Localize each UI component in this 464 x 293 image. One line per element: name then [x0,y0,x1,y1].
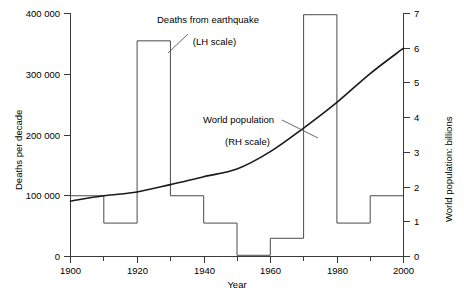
x-axis-title: Year [207,279,267,290]
deaths-annotation-line2: (LH scale) [157,36,272,47]
y-axis-right-tick-label-5: 5 [414,77,419,88]
x-axis-tick-label-2000: 2000 [378,265,429,276]
population-annotation-line1: World population [203,114,292,125]
y-axis-left-tick-label-0: 0 [0,251,60,262]
y-axis-right-ticks [404,14,410,257]
y-axis-left-tick-label-400000: 400 000 [0,8,60,19]
x-axis-tick-label-1920: 1920 [112,265,163,276]
x-axis-tick-label-1940: 1940 [179,265,230,276]
y-axis-right-tick-label-6: 6 [414,43,419,54]
x-axis-tick-label-1900: 1900 [45,265,96,276]
y-axis-right-tick-label-0: 0 [414,251,419,262]
x-axis-tick-label-1960: 1960 [245,265,296,276]
population-annotation-line2: (RH scale) [203,136,292,147]
y-axis-left-title: Deaths per decade [13,70,24,190]
deaths-annotation-line1: Deaths from earthquake [157,14,272,25]
earthquake-deaths-world-population-chart: 400 000 300 000 200 000 100 000 0 7 6 5 … [0,0,464,293]
x-axis-minor-ticks [104,257,370,261]
y-axis-right-tick-label-1: 1 [414,216,419,227]
y-axis-left-tick-label-300000: 300 000 [0,69,60,80]
y-axis-right-tick-label-3: 3 [414,147,419,158]
y-axis-left-tick-label-200000: 200 000 [0,130,60,141]
y-axis-right-tick-label-2: 2 [414,182,419,193]
y-axis-left-ticks [64,14,70,257]
y-axis-right-title: World population: billions [443,72,454,222]
deaths-annotation: Deaths from earthquake (LH scale) [157,14,272,36]
y-axis-right-tick-label-4: 4 [414,112,419,123]
y-axis-left-tick-label-100000: 100 000 [0,190,60,201]
population-annotation: World population (RH scale) [203,114,292,136]
y-axis-right-tick-label-7: 7 [414,8,419,19]
x-axis-tick-label-1980: 1980 [312,265,363,276]
